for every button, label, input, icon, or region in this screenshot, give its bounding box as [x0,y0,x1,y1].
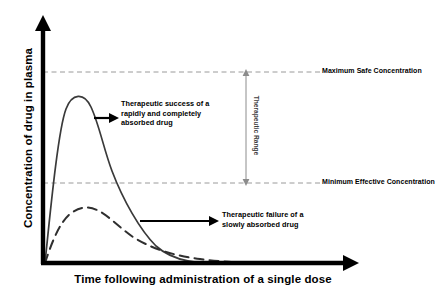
maximum-safe-concentration-label: Maximum Safe Concentration [322,67,422,74]
minimum-effective-concentration-label: Minimum Effective Concentration [322,178,435,185]
success-callout-line-1: Therapeutic success of a [121,99,233,109]
x-axis-title: Time following administration of a singl… [43,273,363,285]
failure-callout-arrow-icon [209,216,219,226]
success-callout-text: Therapeutic success of a rapidly and com… [121,99,233,128]
success-callout-arrow-icon [109,113,119,123]
plot-area [0,0,439,296]
pharmacokinetics-chart: Concentration of drug in plasma Time fol… [0,0,439,296]
success-callout-line-3: absorbed drug [121,118,233,128]
failure-callout-line-1: Therapeutic failure of a [222,210,330,220]
y-axis-arrowhead-icon [35,15,51,31]
success-callout-line-2: rapidly and completely [121,109,233,119]
therapeutic-range-label: Therapeutic Range [253,66,260,186]
x-axis-arrowhead-icon [343,255,359,271]
failure-callout-text: Therapeutic failure of a slowly absorbed… [222,210,330,229]
y-axis-title: Concentration of drug in plasma [22,38,34,238]
failure-callout-line-2: slowly absorbed drug [222,220,330,230]
